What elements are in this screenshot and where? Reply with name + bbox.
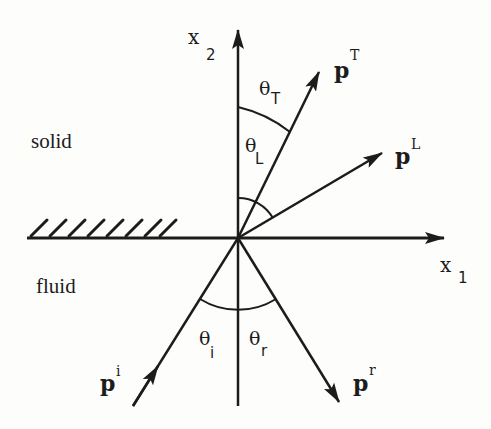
angle-label-theta-L: θ L <box>245 134 264 168</box>
svg-text:p: p <box>100 370 115 396</box>
x1-axis-label: x 1 <box>440 253 468 287</box>
svg-text:p: p <box>395 143 410 169</box>
svg-text:L: L <box>255 150 264 168</box>
x2-axis-label: x 2 <box>188 25 216 64</box>
svg-text:T: T <box>270 90 281 108</box>
angle-label-theta-T: θ T <box>259 77 281 108</box>
vector-label-pr: p r <box>353 362 376 396</box>
svg-text:T: T <box>350 47 360 63</box>
diagram-canvas: solid fluid x 2 x 1 p T p L p i p r θ T … <box>0 0 491 429</box>
arc-theta-T <box>238 107 290 132</box>
region-label-fluid: fluid <box>36 274 76 298</box>
svg-text:r: r <box>261 342 268 360</box>
svg-text:i: i <box>210 344 214 362</box>
vector-label-pT: p T <box>334 47 360 83</box>
angle-label-theta-r: θ r <box>249 327 268 360</box>
vector-label-pL: p L <box>395 136 420 169</box>
svg-text:2: 2 <box>206 46 216 64</box>
svg-text:i: i <box>116 363 121 379</box>
angle-label-theta-i: θ i <box>199 327 214 362</box>
svg-text:θ: θ <box>259 77 270 99</box>
svg-text:θ: θ <box>199 327 210 349</box>
svg-text:x: x <box>440 253 452 277</box>
svg-text:1: 1 <box>458 269 468 287</box>
svg-text:L: L <box>411 136 420 152</box>
svg-text:p: p <box>334 57 349 83</box>
ray-reflected <box>238 238 339 402</box>
vector-label-pi: p i <box>100 363 121 396</box>
arc-theta-L <box>238 198 273 218</box>
wall-hatching <box>31 220 176 236</box>
ray-incident <box>133 238 238 406</box>
svg-text:r: r <box>369 362 376 378</box>
svg-text:x: x <box>188 25 200 49</box>
svg-text:θ: θ <box>249 327 260 349</box>
region-label-solid: solid <box>31 129 72 153</box>
svg-text:p: p <box>353 370 368 396</box>
